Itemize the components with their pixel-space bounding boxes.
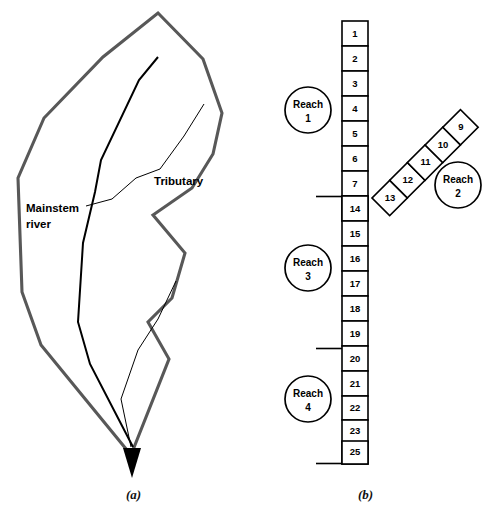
cell-22[interactable]: 22 — [342, 396, 368, 420]
cell-5-label: 5 — [352, 128, 358, 139]
reach-2-number: 2 — [455, 188, 461, 199]
cell-1-label: 1 — [352, 28, 358, 39]
cell-17[interactable]: 17 — [342, 271, 368, 296]
cell-20[interactable]: 20 — [342, 346, 368, 371]
reach-1-number: 1 — [305, 113, 311, 124]
cell-15-label: 15 — [350, 228, 361, 239]
cell-22-label: 22 — [350, 402, 361, 413]
figure-root: Mainstem river Tributary 1 2 — [0, 0, 491, 518]
tributary-label: Tributary — [154, 175, 204, 187]
outlet-arrow-icon — [123, 448, 141, 478]
cell-13-label: 13 — [385, 192, 396, 203]
diagram-canvas: Mainstem river Tributary 1 2 — [0, 0, 491, 518]
cell-15[interactable]: 15 — [342, 221, 368, 246]
cell-14-label: 14 — [350, 203, 361, 214]
reach-4-title: Reach — [293, 388, 323, 399]
cell-3-label: 3 — [352, 78, 357, 89]
watershed-boundary-path — [18, 13, 222, 455]
cell-23-label: 23 — [350, 425, 361, 436]
reach-2-title: Reach — [443, 174, 473, 185]
panel-a-group: Mainstem river Tributary — [18, 13, 222, 478]
cell-16-label: 16 — [350, 253, 361, 264]
mainstem-lower-cells: 14 15 16 17 18 — [342, 196, 368, 464]
cell-6[interactable]: 6 — [342, 146, 368, 171]
cell-21-label: 21 — [350, 378, 361, 389]
cell-5[interactable]: 5 — [342, 121, 368, 146]
cell-3[interactable]: 3 — [342, 71, 368, 96]
cell-9-label: 9 — [458, 121, 463, 132]
panel-b-group: 1 2 3 4 5 — [285, 21, 481, 464]
reach-3-indicator[interactable]: Reach 3 — [285, 245, 331, 291]
cell-6-label: 6 — [352, 153, 357, 164]
cell-18-label: 18 — [350, 303, 361, 314]
mainstem-river-path — [78, 57, 158, 447]
cell-20-label: 20 — [350, 353, 361, 364]
cell-1[interactable]: 1 — [342, 21, 368, 46]
reach-3-number: 3 — [305, 271, 311, 282]
cell-21[interactable]: 21 — [342, 371, 368, 396]
cell-18[interactable]: 18 — [342, 296, 368, 321]
cell-4[interactable]: 4 — [342, 96, 368, 121]
cell-14[interactable]: 14 — [342, 196, 368, 221]
reach-4-number: 4 — [305, 402, 311, 413]
panel-b-caption: (b) — [358, 487, 373, 503]
cell-12-label: 12 — [402, 174, 413, 185]
cell-17-label: 17 — [350, 278, 361, 289]
cell-2[interactable]: 2 — [342, 46, 368, 71]
reach-3-title: Reach — [293, 257, 323, 268]
cell-16[interactable]: 16 — [342, 246, 368, 271]
reach-2-indicator[interactable]: Reach 2 — [435, 162, 481, 208]
reach-4-indicator[interactable]: Reach 4 — [285, 376, 331, 422]
cell-7[interactable]: 7 — [342, 171, 368, 196]
mainstem-river-label-line1: Mainstem — [26, 202, 79, 214]
panel-a-caption: (a) — [126, 487, 141, 503]
cell-23[interactable]: 23 — [342, 420, 368, 442]
cell-19[interactable]: 19 — [342, 321, 368, 346]
cell-10-label: 10 — [438, 139, 449, 150]
cell-19-label: 19 — [350, 328, 361, 339]
cell-25[interactable]: 25 — [342, 441, 368, 464]
reach-1-indicator[interactable]: Reach 1 — [285, 87, 331, 133]
cell-2-label: 2 — [352, 53, 357, 64]
reach-1-title: Reach — [293, 99, 323, 110]
cell-4-label: 4 — [352, 103, 358, 114]
cell-11-label: 11 — [420, 156, 431, 167]
cell-7-label: 7 — [352, 178, 357, 189]
mainstem-upper-cells: 1 2 3 4 5 — [342, 21, 368, 221]
mainstem-river-label-line2: river — [26, 218, 51, 230]
cell-25-label: 25 — [350, 446, 361, 457]
